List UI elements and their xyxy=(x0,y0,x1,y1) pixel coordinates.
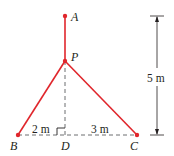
dimension-dc: 3 m xyxy=(91,123,109,135)
arrow-down-icon xyxy=(155,129,159,135)
label-a: A xyxy=(70,10,79,24)
point-p xyxy=(63,59,67,63)
label-d: D xyxy=(60,139,70,153)
dimension-bd: 2 m xyxy=(32,123,50,135)
label-p: P xyxy=(70,50,79,64)
point-b xyxy=(16,133,20,137)
cable-diagram: A P B D C 2 m 3 m 5 m xyxy=(0,0,174,156)
label-b: B xyxy=(10,139,18,153)
arrow-up-icon xyxy=(155,16,159,22)
right-angle-marker xyxy=(57,128,65,135)
label-c: C xyxy=(130,139,139,153)
point-c xyxy=(135,133,139,137)
dimension-height: 5 m xyxy=(147,72,165,84)
point-a xyxy=(63,14,67,18)
